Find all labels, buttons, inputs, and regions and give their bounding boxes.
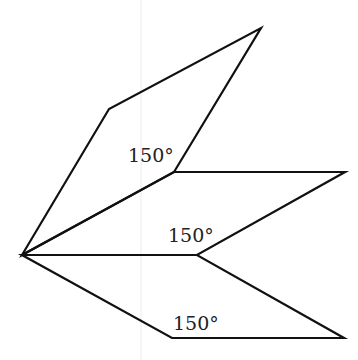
middle-angle-label: 150° [168,224,214,246]
top-angle-label: 150° [128,144,174,166]
bottom-angle-label: 150° [173,312,219,334]
rhombus-diagram: 150° 150° 150° [0,0,358,360]
